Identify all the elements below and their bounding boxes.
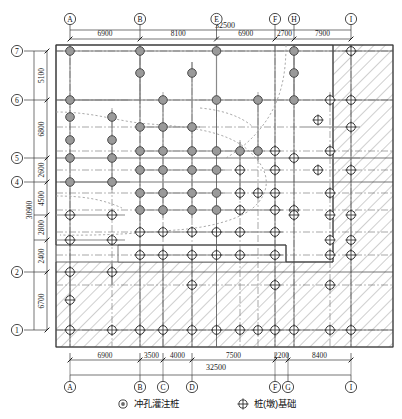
bored-pile[interactable]	[66, 136, 75, 145]
pier-foundation-pile[interactable]	[234, 187, 245, 198]
pier-foundation-pile[interactable]	[211, 226, 222, 237]
grid-bubble-B[interactable]: B	[134, 13, 145, 24]
bored-pile[interactable]	[136, 147, 145, 156]
bored-pile[interactable]	[188, 123, 197, 132]
bored-pile[interactable]	[212, 206, 221, 215]
pier-foundation-pile[interactable]	[269, 204, 280, 215]
bored-pile[interactable]	[159, 189, 168, 198]
bored-pile[interactable]	[212, 47, 221, 56]
pier-foundation-pile[interactable]	[64, 209, 75, 220]
grid-bubble-label: E	[214, 15, 219, 24]
raft-edge-dashed-outline	[56, 45, 286, 235]
bored-pile[interactable]	[188, 206, 197, 215]
left-dim-label: 2600	[37, 162, 46, 177]
pier-foundation-pile[interactable]	[134, 226, 145, 237]
foundation-plan-drawing: 69008100690027007900 32500 ABEFHI 690035…	[0, 0, 402, 419]
grid-bubble-label: 6	[15, 96, 19, 105]
grid-bubble-D[interactable]: D	[186, 381, 197, 392]
grid-bubble-I[interactable]: I	[345, 13, 356, 24]
hatched-ground-region	[56, 45, 393, 347]
pier-foundation-pile[interactable]	[288, 152, 299, 163]
grid-bubble-2[interactable]: 2	[11, 266, 22, 277]
grid-bubble-G[interactable]: G	[282, 381, 293, 392]
bored-pile[interactable]	[108, 178, 117, 187]
grid-bubble-B[interactable]: B	[134, 381, 145, 392]
pier-foundation-pile[interactable]	[312, 164, 323, 175]
pier-foundation-pile[interactable]	[64, 234, 75, 245]
bored-pile[interactable]	[254, 147, 263, 156]
grid-bubble-6[interactable]: 6	[11, 94, 22, 105]
bored-pile[interactable]	[136, 47, 145, 56]
grid-bubble-1[interactable]: 1	[11, 324, 22, 335]
bored-pile[interactable]	[136, 206, 145, 215]
bottom-grid-bubbles: ABCDFGI	[64, 381, 356, 392]
pier-foundation-pile[interactable]	[106, 234, 117, 245]
pier-foundation-pile[interactable]	[312, 114, 323, 125]
pier-foundation-pile[interactable]	[234, 204, 245, 215]
bored-pile[interactable]	[212, 189, 221, 198]
grid-bubble-label: F	[273, 15, 277, 24]
pier-foundation-pile[interactable]	[157, 226, 168, 237]
pier-foundation-pile[interactable]	[269, 226, 280, 237]
bored-pile[interactable]	[136, 189, 145, 198]
pier-foundation-pile[interactable]	[269, 187, 280, 198]
grid-bubble-5[interactable]: 5	[11, 152, 22, 163]
bored-pile[interactable]	[236, 147, 245, 156]
bored-pile[interactable]	[159, 206, 168, 215]
grid-bubble-E[interactable]: E	[211, 13, 222, 24]
pier-foundation-pile[interactable]	[269, 145, 280, 156]
bored-pile[interactable]	[136, 123, 145, 132]
bored-pile[interactable]	[66, 113, 75, 122]
bored-pile[interactable]	[254, 96, 263, 105]
grid-bubble-A[interactable]: A	[64, 381, 75, 392]
top-dim-label: 8100	[171, 29, 186, 38]
bored-pile[interactable]	[188, 189, 197, 198]
bored-pile[interactable]	[66, 47, 75, 56]
top-dim-label: 6900	[98, 29, 113, 38]
bored-pile-symbol	[119, 400, 127, 408]
bottom-dimension-chain: 690035004000750022008400 32500	[68, 351, 354, 375]
bottom-dim-label: 2200	[274, 351, 289, 360]
bored-pile[interactable]	[66, 154, 75, 163]
bored-pile[interactable]	[290, 69, 299, 78]
grid-bubble-F[interactable]: F	[269, 381, 280, 392]
left-grid-bubbles: 765421	[11, 45, 22, 335]
pier-foundation-pile[interactable]	[234, 164, 245, 175]
bored-pile[interactable]	[212, 147, 221, 156]
bored-pile[interactable]	[136, 166, 145, 175]
grid-bubble-label: C	[160, 383, 165, 392]
pier-foundation-pile[interactable]	[269, 164, 280, 175]
grid-bubble-7[interactable]: 7	[11, 45, 22, 56]
left-dimension-chain: 5100680026004500280024006700 30900	[25, 49, 50, 333]
bored-pile[interactable]	[212, 166, 221, 175]
grid-bubble-A[interactable]: A	[64, 13, 75, 24]
grid-bubble-F[interactable]: F	[269, 13, 280, 24]
bored-pile[interactable]	[290, 96, 299, 105]
bored-pile[interactable]	[159, 96, 168, 105]
bored-pile[interactable]	[188, 166, 197, 175]
bored-pile[interactable]	[159, 123, 168, 132]
bored-pile[interactable]	[66, 178, 75, 187]
bored-pile[interactable]	[136, 69, 145, 78]
bored-pile[interactable]	[66, 96, 75, 105]
pier-foundation-pile[interactable]	[234, 226, 245, 237]
grid-bubble-I[interactable]: I	[345, 381, 356, 392]
bored-pile[interactable]	[108, 154, 117, 163]
grid-bubble-H[interactable]: H	[288, 13, 299, 24]
grid-bubble-label: B	[137, 383, 142, 392]
bored-pile[interactable]	[188, 69, 197, 78]
bored-pile[interactable]	[159, 147, 168, 156]
pier-foundation-pile[interactable]	[106, 209, 117, 220]
bored-pile[interactable]	[159, 166, 168, 175]
top-dim-label: 6900	[238, 29, 253, 38]
bored-pile[interactable]	[108, 136, 117, 145]
bored-pile[interactable]	[108, 113, 117, 122]
bored-pile[interactable]	[212, 96, 221, 105]
grid-bubble-label: A	[67, 383, 73, 392]
grid-bubble-label: B	[137, 15, 142, 24]
bored-pile[interactable]	[290, 47, 299, 56]
grid-bubble-C[interactable]: C	[157, 381, 168, 392]
bottom-total-dim: 32500	[206, 363, 226, 372]
grid-bubble-4[interactable]: 4	[11, 176, 22, 187]
bored-pile[interactable]	[188, 147, 197, 156]
